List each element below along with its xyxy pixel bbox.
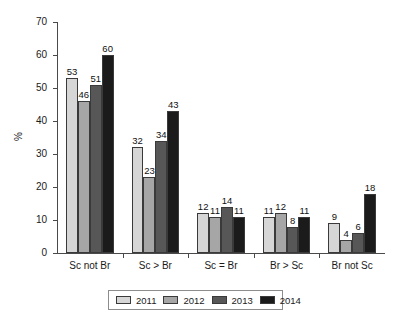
bar-chart-figure: % 010203040506070 5346516032233443121114… [0,0,400,326]
bar[interactable] [197,213,209,253]
bar-group: 53465160 [66,22,114,253]
bar[interactable] [364,194,376,253]
y-axis-tick: 30 [53,154,58,155]
bar-value-label: 11 [229,205,249,216]
bar-value-label: 60 [98,43,118,54]
y-axis-title: % [13,132,24,141]
legend-label: 2012 [183,295,204,306]
bar[interactable] [155,141,167,253]
y-axis-tick-label: 40 [36,114,47,127]
legend-label: 2013 [232,295,253,306]
y-axis-tick-label: 50 [36,81,47,94]
bar[interactable] [102,55,114,253]
x-axis-category-label: Br not Sc [319,260,385,271]
legend-swatch [212,296,227,304]
legend-swatch [260,296,275,304]
bar[interactable] [263,217,275,253]
bar-group: 94618 [328,22,376,253]
legend-item[interactable]: 2013 [212,295,253,306]
bar[interactable] [143,177,155,253]
x-axis-category-label: Sc = Br [188,260,254,271]
x-axis-line [57,253,385,254]
legend-label: 2014 [280,295,301,306]
bar[interactable] [66,78,78,253]
y-axis-tick-label: 20 [36,180,47,193]
bar-value-label: 11 [294,205,314,216]
y-axis-tick: 70 [53,22,58,23]
y-axis-tick-label: 60 [36,48,47,61]
legend-item[interactable]: 2014 [260,295,301,306]
chart-legend: 2011201220132014 [108,290,283,310]
y-axis-tick-label: 10 [36,213,47,226]
bar-value-label: 53 [62,66,82,77]
y-axis-tick: 60 [53,55,58,56]
legend-swatch [116,296,131,304]
legend-swatch [163,296,178,304]
bar[interactable] [132,147,144,253]
y-axis-tick: 50 [53,88,58,89]
x-axis-tick [319,253,320,258]
y-axis-tick-label: 0 [41,246,47,259]
y-axis-tick: 10 [53,220,58,221]
bar[interactable] [352,233,364,253]
y-axis-tick-label: 70 [36,15,47,28]
bar[interactable] [167,111,179,253]
bar[interactable] [90,85,102,253]
x-axis-category-label: Br > Sc [254,260,320,271]
bar[interactable] [209,217,221,253]
y-axis-tick: 20 [53,187,58,188]
x-axis-category-label: Sc > Br [123,260,189,271]
x-axis-tick [123,253,124,258]
bar[interactable] [298,217,310,253]
legend-item[interactable]: 2012 [163,295,204,306]
legend-item[interactable]: 2011 [116,295,156,306]
bar-value-label: 43 [163,99,183,110]
y-axis-tick: 40 [53,121,58,122]
x-axis-tick [188,253,189,258]
x-axis-tick [254,253,255,258]
bar[interactable] [233,217,245,253]
bar-value-label: 12 [271,201,291,212]
bar-value-label: 32 [128,135,148,146]
bar-value-label: 18 [360,182,380,193]
bar-group: 32233443 [132,22,180,253]
legend-label: 2011 [136,295,156,306]
bar-group: 12111411 [197,22,245,253]
plot-area: 010203040506070 534651603223344312111411… [57,22,385,253]
x-axis-category-label: Sc not Br [57,260,123,271]
y-axis-line [57,22,58,253]
bar-group: 1112811 [263,22,311,253]
bar[interactable] [287,227,299,253]
bar-value-label: 9 [324,211,344,222]
y-axis-tick-label: 30 [36,147,47,160]
bar[interactable] [78,101,90,253]
bar[interactable] [340,240,352,253]
y-axis-tick: 0 [53,253,58,254]
